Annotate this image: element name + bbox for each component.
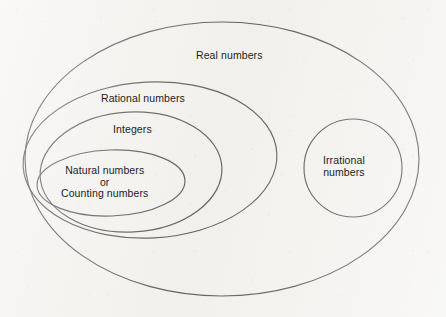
venn-diagram-svg — [0, 0, 446, 317]
rational-numbers-label-text: Rational numbers — [101, 93, 185, 105]
natural-numbers-label-line-1: Natural numbers — [61, 165, 148, 177]
rational-numbers-label: Rational numbers — [101, 93, 185, 105]
real-numbers-label-text: Real numbers — [196, 50, 263, 62]
integers-label-text: Integers — [113, 124, 152, 136]
irrational-numbers-label: Irrational numbers — [323, 155, 365, 178]
real-numbers-label: Real numbers — [196, 50, 263, 62]
irrational-numbers-label-line-1: Irrational — [323, 155, 365, 167]
number-sets-diagram: Real numbers Rational numbers Integers N… — [0, 0, 446, 317]
irrational-numbers-label-line-2: numbers — [323, 167, 365, 179]
natural-numbers-label-line-3: Counting numbers — [61, 188, 148, 200]
natural-numbers-label: Natural numbers or Counting numbers — [61, 165, 148, 200]
integers-label: Integers — [113, 124, 152, 136]
